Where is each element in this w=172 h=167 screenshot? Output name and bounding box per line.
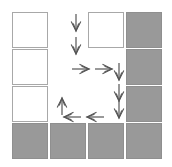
tile-r1c1-empty: [50, 49, 86, 85]
tile-r3c0-gray[interactable]: [12, 123, 48, 159]
tile-r3c1-gray[interactable]: [50, 123, 86, 159]
tile-r2c3-gray[interactable]: [126, 86, 162, 122]
tile-r0c0-white[interactable]: [12, 12, 48, 48]
tile-r0c2-white[interactable]: [88, 12, 124, 48]
tile-r1c2-empty: [88, 49, 124, 85]
tile-r2c1-empty: [50, 86, 86, 122]
tile-r1c0-white[interactable]: [12, 49, 48, 85]
tile-r3c2-gray[interactable]: [88, 123, 124, 159]
figure-canvas: [0, 0, 172, 167]
tile-r0c1-empty: [50, 12, 86, 48]
tile-r0c3-gray[interactable]: [126, 12, 162, 48]
tile-r1c3-gray[interactable]: [126, 49, 162, 85]
tile-r2c0-white[interactable]: [12, 86, 48, 122]
tile-r2c2-empty: [88, 86, 124, 122]
tile-r3c3-gray[interactable]: [126, 123, 162, 159]
